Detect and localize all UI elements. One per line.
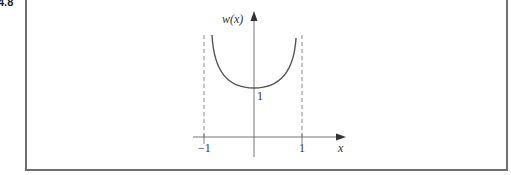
x-axis-label: x (337, 141, 344, 155)
y-axis-label: w(x) (222, 12, 243, 26)
x-tick-label-neg1: −1 (198, 141, 211, 155)
y-axis-arrow-icon (251, 11, 258, 21)
weight-function-diagram: w(x) x −1 1 1 (0, 0, 511, 175)
y-intercept-label: 1 (257, 89, 263, 103)
x-tick-label-1: 1 (299, 141, 305, 155)
x-axis-arrow-icon (336, 134, 346, 141)
